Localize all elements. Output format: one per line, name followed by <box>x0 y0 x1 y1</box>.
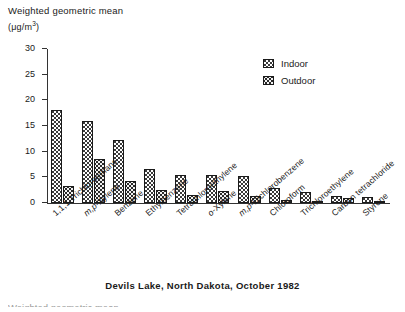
legend-item-outdoor[interactable]: Outdoor <box>263 72 315 89</box>
y-tick-label-25: 25 <box>25 69 35 79</box>
y-tick-label-15: 15 <box>25 120 35 130</box>
bar-indoor[interactable] <box>238 176 249 203</box>
y-tick-25: 25 <box>42 74 47 75</box>
legend-swatch-indoor-icon <box>263 59 274 68</box>
y-tick-label-30: 30 <box>25 43 35 53</box>
y-axis-title-units: (μg/m3) <box>8 18 123 34</box>
y-tick-label-10: 10 <box>25 146 35 156</box>
bar-indoor[interactable] <box>144 169 155 203</box>
legend-label: Outdoor <box>281 75 315 86</box>
y-tick-0: 0 <box>42 202 47 203</box>
y-tick-label-5: 5 <box>30 171 35 181</box>
unit-base: μg/m <box>11 22 32 32</box>
bar-group <box>113 49 144 203</box>
footer-partial-text: Weighted geometric mean <box>8 302 119 312</box>
y-axis-title: Weighted geometric mean (μg/m3) <box>8 5 123 33</box>
y-tick-15: 15 <box>42 125 47 126</box>
unit-suffix: ) <box>36 22 39 32</box>
bar-indoor[interactable] <box>51 110 62 203</box>
y-tick-label-20: 20 <box>25 94 35 104</box>
bar-group <box>51 49 82 203</box>
y-tick-5: 5 <box>42 176 47 177</box>
legend-swatch-outdoor-icon <box>263 76 274 85</box>
bar-group <box>144 49 175 203</box>
y-axis-title-line1: Weighted geometric mean <box>8 5 123 18</box>
y-tick-30: 30 <box>42 48 47 49</box>
y-tick-label-0: 0 <box>30 197 35 207</box>
legend-label: Indoor <box>281 58 308 69</box>
chart-legend: IndoorOutdoor <box>263 55 315 89</box>
y-tick-10: 10 <box>42 151 47 152</box>
legend-item-indoor[interactable]: Indoor <box>263 55 315 72</box>
chart-caption: Devils Lake, North Dakota, October 1982 <box>0 280 405 291</box>
y-tick-20: 20 <box>42 99 47 100</box>
